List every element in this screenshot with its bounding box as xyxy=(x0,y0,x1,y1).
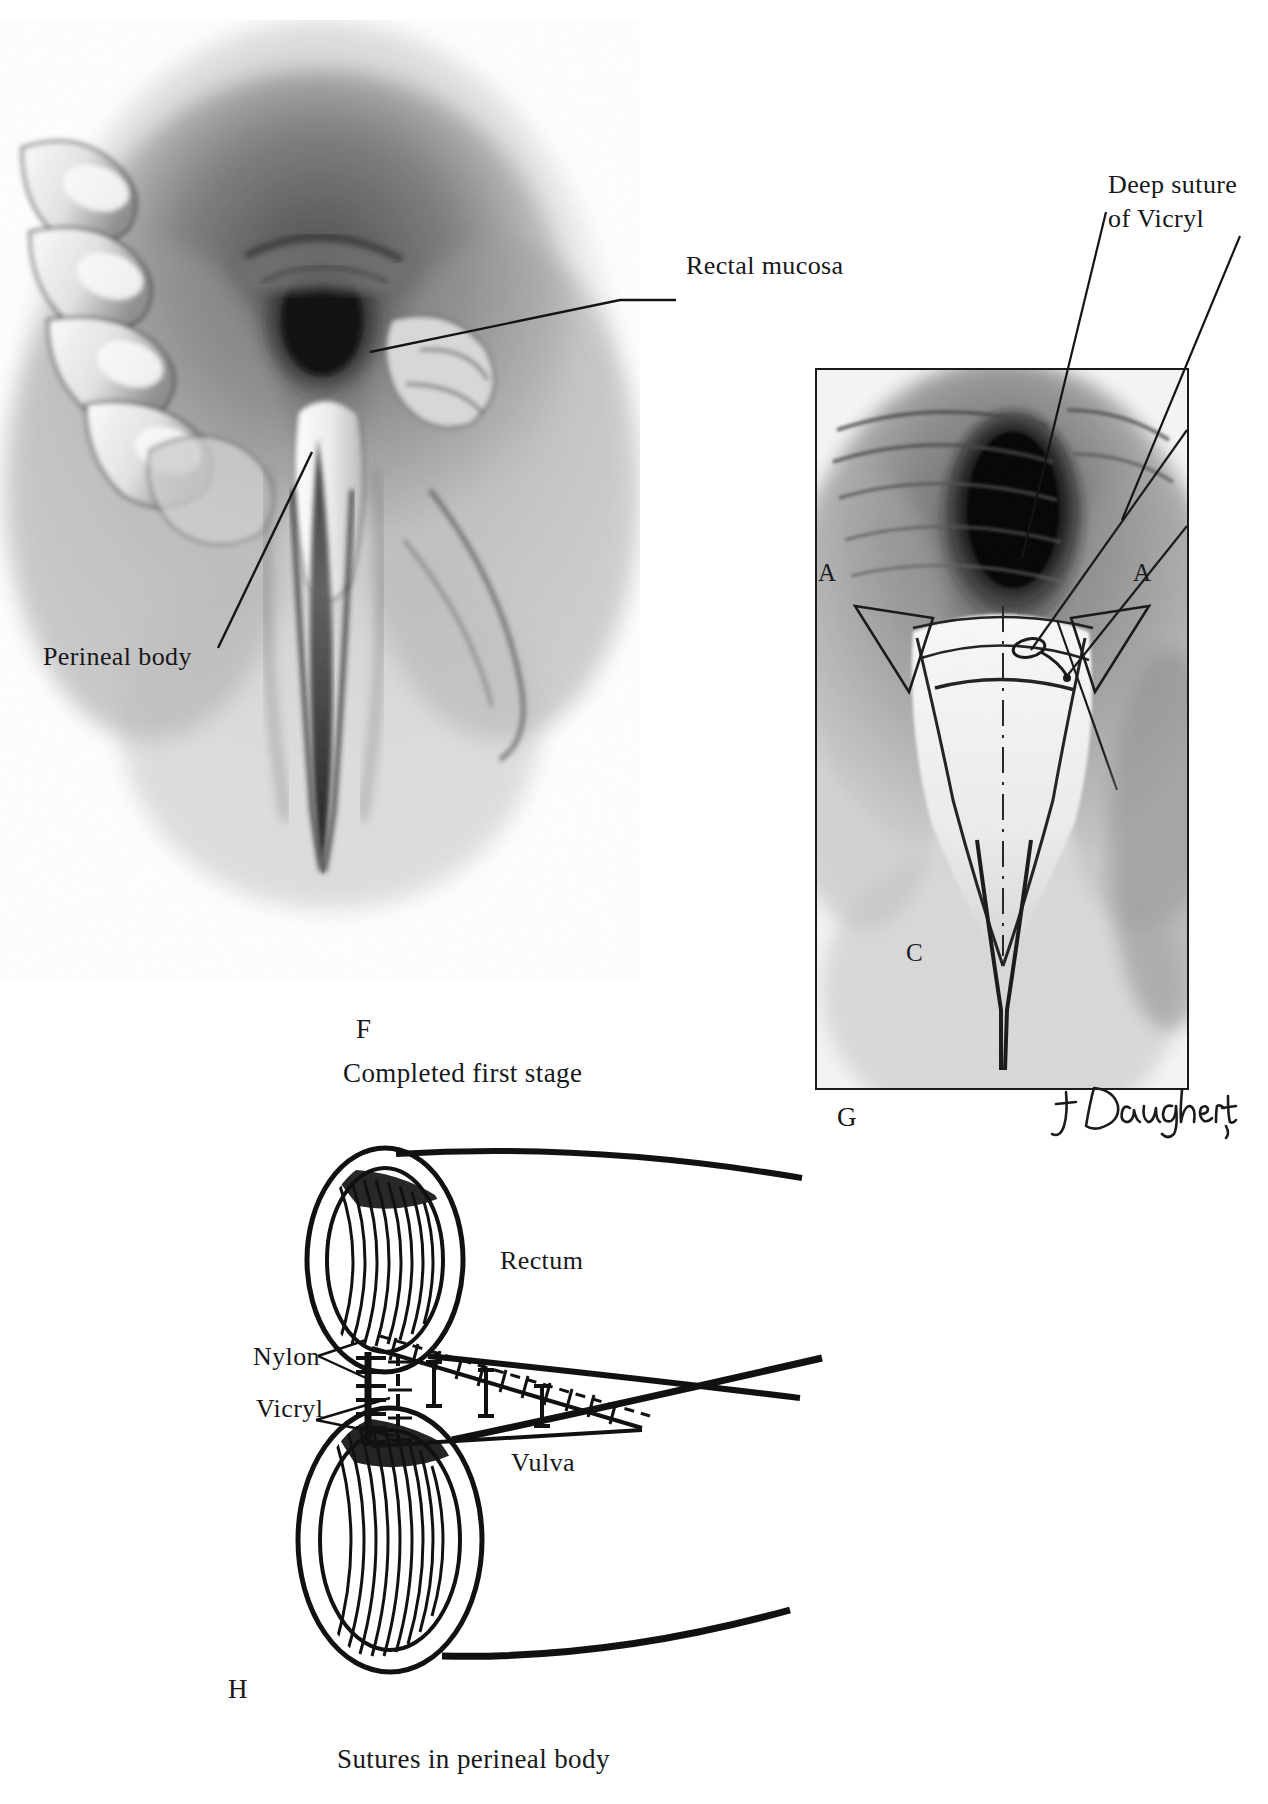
label-nylon: Nylon xyxy=(253,1340,320,1373)
figure-h-line-diagram xyxy=(190,1140,970,1740)
artist-signature xyxy=(1050,1082,1240,1140)
label-vicryl: Vicryl xyxy=(256,1392,323,1425)
inset-letter-c-bottom: C xyxy=(906,937,923,969)
inset-letter-a-right: A xyxy=(1133,557,1151,589)
figure-letter-h: H xyxy=(228,1672,248,1707)
label-vulva: Vulva xyxy=(511,1446,575,1479)
label-deep-suture-line2: of Vicryl xyxy=(1108,202,1204,235)
illustration-plate: Rectal mucosa Perineal body Deep suture … xyxy=(0,0,1268,1804)
figure-g-inset-panel xyxy=(815,368,1189,1090)
label-perineal-body: Perineal body xyxy=(43,640,192,673)
figure-f-wash-drawing xyxy=(0,20,640,980)
figure-h-caption: Sutures in perineal body xyxy=(337,1742,610,1777)
label-deep-suture-line1: Deep suture xyxy=(1108,168,1237,201)
figure-letter-g: G xyxy=(837,1100,857,1135)
inset-letter-a-left: A xyxy=(818,557,836,589)
label-rectal-mucosa: Rectal mucosa xyxy=(686,249,844,282)
figure-f-caption: Completed first stage xyxy=(343,1056,582,1091)
figure-letter-f: F xyxy=(356,1012,371,1047)
label-rectum: Rectum xyxy=(500,1244,583,1277)
